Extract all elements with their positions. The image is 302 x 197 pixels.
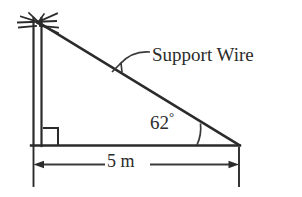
angle-label: 62°: [150, 111, 174, 132]
right-angle-marker-icon: [44, 128, 58, 144]
figure-canvas: [0, 0, 302, 197]
leader-line-icon: [112, 52, 150, 72]
base-dimension-label: 5 m: [107, 152, 135, 170]
angle-value: 62: [150, 112, 169, 133]
degree-symbol: °: [169, 109, 174, 124]
dimension-line-icon: [34, 148, 240, 186]
angle-arc-icon: [197, 124, 201, 146]
support-wire-line: [38, 22, 239, 145]
utility-pole-icon: [18, 13, 58, 146]
support-wire-label: Support Wire: [152, 45, 254, 64]
geometry-figure: Support Wire 62° 5 m: [0, 0, 302, 197]
